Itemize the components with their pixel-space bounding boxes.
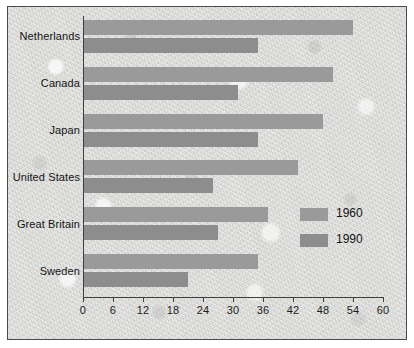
legend-swatch-1960 — [300, 208, 328, 221]
x-tick-54 — [353, 297, 354, 302]
bar-canada-1990 — [84, 85, 238, 100]
bar-sweden-1960 — [84, 254, 258, 269]
x-tick-label-12: 12 — [128, 304, 158, 316]
x-tick-label-48: 48 — [308, 304, 338, 316]
chart-figure: 06121824303642485460 NetherlandsCanadaJa… — [0, 0, 414, 348]
x-tick-12 — [143, 297, 144, 302]
category-label-great-britain: Great Britain — [17, 218, 80, 230]
category-label-sweden: Sweden — [40, 265, 80, 277]
bar-netherlands-1990 — [84, 38, 258, 53]
bar-netherlands-1960 — [84, 20, 353, 35]
x-tick-30 — [233, 297, 234, 302]
bar-great-britain-1990 — [84, 225, 218, 240]
legend-swatch-1990 — [300, 234, 328, 247]
category-label-netherlands: Netherlands — [20, 30, 80, 42]
x-tick-label-6: 6 — [98, 304, 128, 316]
x-tick-6 — [113, 297, 114, 302]
x-tick-label-30: 30 — [218, 304, 248, 316]
legend-label-1990: 1990 — [336, 232, 363, 246]
x-tick-36 — [263, 297, 264, 302]
x-tick-label-42: 42 — [278, 304, 308, 316]
x-tick-label-60: 60 — [368, 304, 398, 316]
x-tick-label-54: 54 — [338, 304, 368, 316]
legend-label-1960: 1960 — [336, 206, 363, 220]
x-tick-label-18: 18 — [158, 304, 188, 316]
bar-united-states-1960 — [84, 160, 298, 175]
x-tick-24 — [203, 297, 204, 302]
bar-canada-1960 — [84, 67, 333, 82]
x-tick-48 — [323, 297, 324, 302]
category-label-japan: Japan — [50, 124, 80, 136]
category-label-united-states: United States — [13, 171, 80, 183]
x-tick-42 — [293, 297, 294, 302]
bar-japan-1990 — [84, 132, 258, 147]
bar-united-states-1990 — [84, 178, 213, 193]
x-tick-18 — [173, 297, 174, 302]
chart-plot-area: 06121824303642485460 NetherlandsCanadaJa… — [0, 0, 414, 348]
bar-great-britain-1960 — [84, 207, 268, 222]
x-tick-label-0: 0 — [68, 304, 98, 316]
x-tick-label-24: 24 — [188, 304, 218, 316]
category-label-canada: Canada — [41, 77, 80, 89]
x-tick-60 — [383, 297, 384, 302]
bar-sweden-1990 — [84, 272, 188, 287]
bar-japan-1960 — [84, 114, 323, 129]
x-tick-label-36: 36 — [248, 304, 278, 316]
x-tick-0 — [83, 297, 84, 302]
